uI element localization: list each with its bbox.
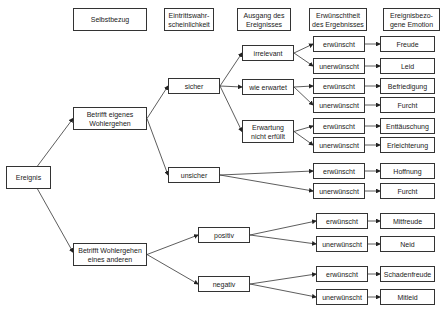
arrow-irrelevant-to-d1 [294, 44, 313, 53]
node-emotion-neid: Neid [380, 236, 435, 252]
arrow-nicht-to-d5 [294, 126, 313, 132]
arrow-negativ-to-d11 [250, 274, 316, 284]
node-erwartung-nicht-erfuellt: Erwartung nicht erfüllt [242, 120, 294, 143]
node-betrifft-eigenes-wohlergehen: Betrifft eigenes Wohlergehen [73, 107, 147, 130]
node-unerwuenscht: unerwünscht [313, 97, 365, 113]
node-wie-erwartet: wie erwartet [242, 79, 294, 95]
arrow-wie-to-d3 [294, 86, 313, 87]
arrow-positiv-to-d9 [250, 221, 316, 235]
node-erwuenscht: erwünscht [313, 118, 365, 134]
connector-layer [0, 0, 441, 315]
node-erwuenscht: erwünscht [316, 266, 368, 282]
node-emotion-furcht: Furcht [380, 97, 435, 113]
arrow-sicher-to-nicht [220, 86, 242, 132]
arrow-sicher-to-irrelevant [220, 53, 242, 86]
arrow-unsicher-to-d7 [220, 171, 313, 175]
node-irrelevant: irrelevant [242, 45, 294, 61]
arrow-sicher-to-wie [220, 86, 242, 87]
arrow-ereignis-to-anderen [38, 189, 74, 252]
node-unsicher: unsicher [168, 167, 220, 183]
node-unerwuenscht: unerwünscht [316, 236, 368, 252]
arrow-ereignis-to-eigenes [38, 119, 74, 167]
arrow-unsicher-to-d8 [220, 175, 313, 191]
node-emotion-mitfreude: Mitfreude [380, 213, 435, 229]
node-unerwuenscht: unerwünscht [313, 137, 365, 153]
node-emotion-enttaeuschung: Enttäuschung [380, 118, 435, 134]
node-erwuenscht: erwünscht [313, 36, 365, 52]
arrow-anderen-to-negativ [147, 255, 198, 285]
arrow-eigenes-to-unsicher [147, 119, 168, 176]
header-ausgang: Ausgang des Ereignisses [237, 8, 291, 31]
header-erwuenschtheit: Erwünschtheit des Ergebnisses [309, 8, 367, 31]
node-negativ: negativ [198, 276, 250, 292]
node-ereignis: Ereignis [6, 166, 51, 189]
node-betrifft-wohlergehen-anderen: Betrifft Wohlergehen eines anderen [73, 243, 147, 266]
node-emotion-mitleid: Mitleid [380, 289, 435, 305]
arrow-irrelevant-to-d2 [294, 53, 313, 66]
node-emotion-hoffnung: Hoffnung [380, 163, 435, 179]
node-unerwuenscht: unerwünscht [313, 183, 365, 199]
node-unerwuenscht: unerwünscht [313, 58, 365, 74]
node-erwuenscht: erwünscht [313, 78, 365, 94]
node-emotion-furcht: Furcht [380, 183, 435, 199]
node-emotion-befriedigung: Befriedigung [380, 78, 435, 94]
arrow-negativ-to-d12 [250, 284, 316, 297]
arrow-nicht-to-d6 [294, 132, 313, 146]
arrow-positiv-to-d10 [250, 235, 316, 244]
node-positiv: positiv [198, 227, 250, 243]
header-selbstbezug: Selbstbezug [73, 8, 147, 31]
header-emotion: Ereignisbezo- gene Emotion [383, 8, 440, 31]
header-eintrittswahrscheinlichkeit: Eintrittswahr- scheinlichkeit [164, 8, 214, 31]
node-emotion-schadenfreude: Schadenfreude [380, 266, 435, 282]
node-emotion-freude: Freude [380, 36, 435, 52]
arrow-wie-to-d4 [294, 87, 313, 105]
node-emotion-leid: Leid [380, 58, 435, 74]
arrow-eigenes-to-sicher [147, 86, 168, 119]
node-erwuenscht: erwünscht [316, 213, 368, 229]
arrow-anderen-to-positiv [147, 235, 198, 255]
node-emotion-erleichterung: Erleichterung [380, 137, 435, 153]
node-erwuenscht: erwünscht [313, 163, 365, 179]
node-unerwuenscht: unerwünscht [316, 289, 368, 305]
node-sicher: sicher [168, 78, 220, 94]
